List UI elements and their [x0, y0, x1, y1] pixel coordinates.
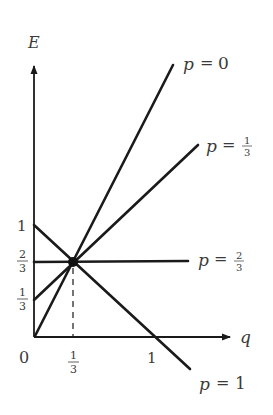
- label-p-0-eq: =: [200, 53, 213, 72]
- label-p-0-value: 0: [218, 53, 229, 73]
- label-p-two-thirds-num: 2: [236, 250, 242, 261]
- y-tick-1: 1: [17, 217, 27, 235]
- intersection-point: [68, 257, 78, 267]
- label-p-two-thirds-var: p: [198, 250, 209, 270]
- y-tick-two-thirds-num: 2: [19, 248, 26, 261]
- label-p-1-value: 1: [235, 373, 246, 393]
- label-p-0: p = 0: [183, 53, 229, 74]
- line-p-two-thirds: [34, 261, 188, 262]
- y-tick-two-thirds: 2 3: [17, 248, 28, 275]
- label-p-one-third-den: 3: [244, 147, 250, 158]
- label-p-1-eq: =: [216, 373, 229, 392]
- x-tick-one-third-den: 3: [70, 363, 77, 376]
- x-axis-label: q: [240, 327, 251, 347]
- x-tick-one-third-num: 1: [70, 349, 77, 362]
- y-axis-label: E: [27, 33, 40, 52]
- label-p-one-third-num: 1: [244, 135, 250, 146]
- origin-label: 0: [19, 348, 29, 367]
- label-p-two-thirds: p = 2 3: [198, 249, 244, 273]
- label-p-one-third-var: p: [206, 136, 217, 156]
- label-p-1: p = 1: [199, 373, 246, 394]
- y-tick-one-third-den: 3: [19, 300, 26, 313]
- x-tick-one-third: 1 3: [68, 349, 79, 376]
- y-tick-two-thirds-den: 3: [19, 262, 26, 275]
- label-p-two-thirds-eq: =: [214, 249, 227, 268]
- y-tick-one-third-num: 1: [19, 286, 26, 299]
- line-p-1: [34, 225, 190, 369]
- label-p-one-third: p = 1 3: [206, 135, 252, 158]
- label-p-0-var: p: [183, 54, 194, 74]
- x-tick-1: 1: [147, 349, 157, 367]
- expected-payoff-diagram: E q 0 1 2 3 1 3 1 3 1 p = 0 p = 1 3 p: [0, 0, 273, 415]
- y-tick-one-third: 1 3: [17, 286, 28, 313]
- line-p-0: [35, 65, 173, 336]
- label-p-1-var: p: [199, 374, 210, 394]
- line-p-one-third: [34, 145, 198, 300]
- label-p-two-thirds-den: 3: [236, 262, 242, 273]
- label-p-one-third-eq: =: [222, 135, 235, 154]
